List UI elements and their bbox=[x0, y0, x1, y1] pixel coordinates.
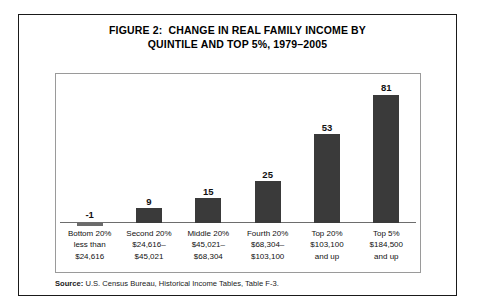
source-label: Source: bbox=[55, 279, 83, 288]
x-tick-line: $68,304 bbox=[179, 251, 238, 262]
bar-value-label: 9 bbox=[146, 197, 151, 207]
bar-rect bbox=[136, 208, 162, 223]
bar-rect bbox=[373, 95, 399, 224]
figure-title: FIGURE 2: CHANGE IN REAL FAMILY INCOME B… bbox=[19, 24, 456, 52]
bar-series: -1 9 15 25 53 bbox=[60, 83, 416, 223]
figure-title-line-2: QUINTILE AND TOP 5%, 1979–2005 bbox=[19, 38, 456, 52]
x-tick-line: $45,021– bbox=[179, 239, 238, 250]
bar-rect bbox=[255, 181, 281, 223]
x-tick-line: less than bbox=[60, 239, 119, 250]
x-tick-line: $103,100 bbox=[297, 239, 356, 250]
source-text: U.S. Census Bureau, Historical Income Ta… bbox=[83, 279, 279, 288]
source-note: Source: U.S. Census Bureau, Historical I… bbox=[55, 279, 279, 288]
x-tick-line: $24,616 bbox=[60, 251, 119, 262]
x-tick-line: Second 20% bbox=[119, 228, 178, 239]
bar-value-label: 81 bbox=[381, 83, 392, 93]
x-tick-line: $45,021 bbox=[119, 251, 178, 262]
x-tick-line: Top 20% bbox=[297, 228, 356, 239]
bar-value-label: -1 bbox=[85, 210, 93, 220]
bar-value-label: 53 bbox=[322, 123, 333, 133]
chart-plot-area: -1 9 15 25 53 bbox=[56, 74, 420, 272]
x-tick-line: and up bbox=[297, 251, 356, 262]
x-tick-label: Top 20% $103,100 and up bbox=[297, 228, 356, 270]
x-tick-line: $24,616– bbox=[119, 239, 178, 250]
x-tick-label: Top 5% $184,500 and up bbox=[357, 228, 416, 270]
x-tick-label: Fourth 20% $68,304– $103,100 bbox=[238, 228, 297, 270]
x-axis-tick-labels: Bottom 20% less than $24,616 Second 20% … bbox=[60, 224, 416, 270]
x-tick-line: and up bbox=[357, 251, 416, 262]
figure-title-line-1: FIGURE 2: CHANGE IN REAL FAMILY INCOME B… bbox=[19, 24, 456, 38]
bar-item: 53 bbox=[297, 83, 356, 223]
bar-item: 9 bbox=[119, 83, 178, 223]
bar-item: 15 bbox=[179, 83, 238, 223]
x-tick-label: Bottom 20% less than $24,616 bbox=[60, 228, 119, 270]
bar-rect bbox=[314, 134, 340, 223]
x-tick-label: Second 20% $24,616– $45,021 bbox=[119, 228, 178, 270]
bar-item: 81 bbox=[357, 83, 416, 223]
bar-item: 25 bbox=[238, 83, 297, 223]
x-tick-line: Top 5% bbox=[357, 228, 416, 239]
x-tick-line: $68,304– bbox=[238, 239, 297, 250]
x-tick-label: Middle 20% $45,021– $68,304 bbox=[179, 228, 238, 270]
bar-item: -1 bbox=[60, 83, 119, 223]
x-tick-line: $103,100 bbox=[238, 251, 297, 262]
x-tick-line: Middle 20% bbox=[179, 228, 238, 239]
x-tick-line: Fourth 20% bbox=[238, 228, 297, 239]
x-tick-line: Bottom 20% bbox=[60, 228, 119, 239]
figure-frame: FIGURE 2: CHANGE IN REAL FAMILY INCOME B… bbox=[18, 14, 457, 296]
chart-plot-frame: -1 9 15 25 53 bbox=[55, 73, 421, 273]
x-tick-line: $184,500 bbox=[357, 239, 416, 250]
bar-rect bbox=[195, 198, 221, 223]
bar-value-label: 15 bbox=[203, 187, 214, 197]
bar-value-label: 25 bbox=[262, 170, 273, 180]
